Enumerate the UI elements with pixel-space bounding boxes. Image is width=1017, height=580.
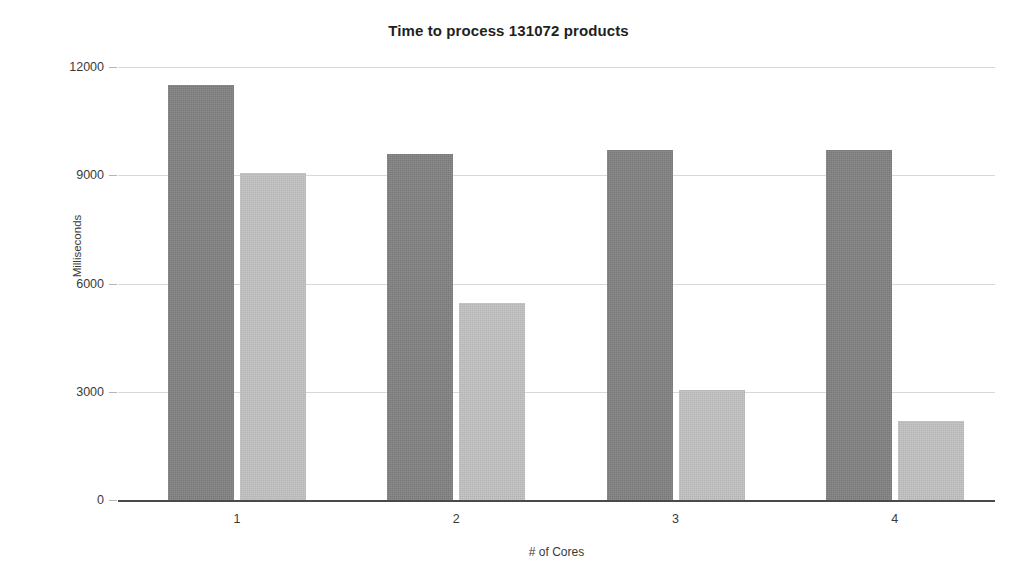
y-axis-tick-mark [109,500,117,501]
y-axis-tick-mark [109,284,117,285]
y-axis-tick-label: 0 [97,493,104,507]
bar-chart: Time to process 131072 products Millisec… [0,0,1017,580]
plot-area: 030006000900012000 [118,67,995,500]
x-axis-tick-label-1: 1 [234,512,241,526]
y-axis-tick-mark [109,67,117,68]
y-axis-tick-label: 3000 [76,385,104,399]
chart-title: Time to process 131072 products [0,22,1017,39]
y-axis-title: Milliseconds [71,181,87,311]
bar-series-a-1 [168,85,234,500]
bar-series-b-1 [240,173,306,500]
x-axis-title: # of Cores [118,545,995,559]
y-axis-tick-label: 12000 [69,60,104,74]
bar-series-b-2 [459,303,525,500]
y-axis-tick-label: 9000 [76,168,104,182]
axis-baseline [118,500,995,502]
bar-series-a-4 [826,150,892,500]
bar-series-a-2 [387,154,453,500]
y-axis-tick-label: 6000 [76,277,104,291]
bar-series-b-4 [898,421,964,500]
y-axis-tick-mark [109,175,117,176]
y-axis-tick-mark [109,392,117,393]
bar-series-a-3 [607,150,673,500]
gridline [118,67,995,68]
x-axis-tick-label-4: 4 [891,512,898,526]
x-axis-tick-label-2: 2 [453,512,460,526]
x-axis-tick-label-3: 3 [672,512,679,526]
bar-series-b-3 [679,390,745,500]
